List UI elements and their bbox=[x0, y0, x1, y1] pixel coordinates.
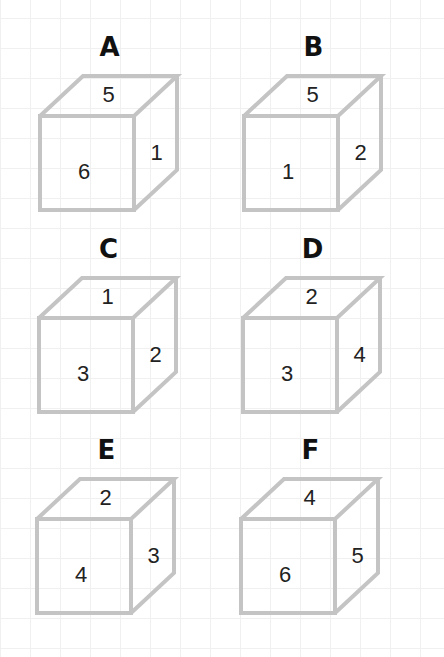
top-face-number: 2 bbox=[99, 485, 111, 511]
right-face-number: 2 bbox=[354, 140, 366, 166]
front-face-number: 1 bbox=[282, 159, 294, 185]
front-face-number: 6 bbox=[279, 562, 291, 588]
cube-label: C bbox=[99, 234, 118, 264]
cube-c: C132 bbox=[39, 208, 239, 423]
front-face-number: 3 bbox=[77, 361, 89, 387]
right-face-number: 3 bbox=[147, 543, 159, 569]
top-face-number: 4 bbox=[303, 485, 315, 511]
right-face-number: 5 bbox=[351, 543, 363, 569]
cube-f: F465 bbox=[241, 409, 441, 624]
right-face-number: 1 bbox=[150, 140, 162, 166]
cube-b: B512 bbox=[244, 6, 444, 221]
right-face-number: 4 bbox=[353, 342, 365, 368]
cube-label: D bbox=[302, 234, 324, 264]
cube-a: A561 bbox=[40, 6, 240, 221]
cube-outline-icon bbox=[39, 208, 239, 423]
cube-label: F bbox=[302, 435, 320, 465]
cube-label: A bbox=[99, 32, 119, 62]
cube-outline-icon bbox=[40, 6, 240, 221]
cube-label: B bbox=[304, 32, 324, 62]
cube-e: E243 bbox=[37, 409, 237, 624]
cube-outline-icon bbox=[243, 208, 443, 423]
top-face-number: 5 bbox=[102, 82, 114, 108]
cube-label: E bbox=[98, 435, 116, 465]
top-face-number: 5 bbox=[306, 82, 318, 108]
right-face-number: 2 bbox=[149, 342, 161, 368]
cube-d: D234 bbox=[243, 208, 443, 423]
cube-outline-icon bbox=[241, 409, 441, 624]
front-face-number: 4 bbox=[75, 562, 87, 588]
front-face-number: 3 bbox=[281, 361, 293, 387]
front-face-number: 6 bbox=[78, 159, 90, 185]
top-face-number: 1 bbox=[101, 284, 113, 310]
top-face-number: 2 bbox=[305, 284, 317, 310]
cube-outline-icon bbox=[244, 6, 444, 221]
cube-outline-icon bbox=[37, 409, 237, 624]
